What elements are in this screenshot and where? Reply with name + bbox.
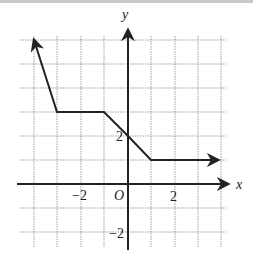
coordinate-plane: y x O −2 2 2 −2 [0, 0, 253, 259]
function-curve [34, 40, 218, 160]
origin-label: O [114, 188, 124, 203]
x-tick-neg2: −2 [72, 188, 87, 203]
y-tick-neg2: −2 [109, 226, 124, 241]
x-axis-label: x [235, 177, 243, 192]
y-axis-label: y [120, 7, 129, 22]
y-tick-pos2: 2 [116, 129, 123, 144]
grid [20, 36, 226, 247]
x-tick-pos2: 2 [170, 189, 177, 204]
